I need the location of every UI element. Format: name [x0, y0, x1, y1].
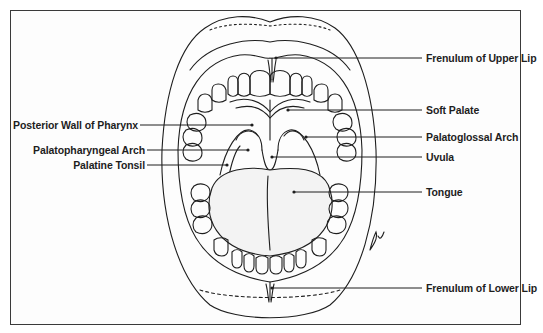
label-frenulum-of-lower-lip: Frenulum of Lower Lip: [426, 282, 537, 294]
label-palatoglossal-arch: Palatoglossal Arch: [426, 131, 518, 143]
label-frenulum-of-upper-lip: Frenulum of Upper Lip: [426, 52, 536, 64]
label-tongue: Tongue: [426, 186, 463, 198]
tongue-shape: [209, 168, 332, 256]
label-uvula: Uvula: [426, 151, 454, 163]
label-palatine-tonsil: Palatine Tonsil: [73, 159, 145, 171]
outer-lip-outline: [162, 17, 376, 318]
label-palatopharyngeal-arch: Palatopharyngeal Arch: [33, 144, 145, 156]
uvula-shape: [262, 150, 278, 170]
label-posterior-wall-of-pharynx: Posterior Wall of Pharynx: [13, 119, 138, 131]
signature: [370, 232, 384, 250]
label-soft-palate: Soft Palate: [426, 104, 479, 116]
